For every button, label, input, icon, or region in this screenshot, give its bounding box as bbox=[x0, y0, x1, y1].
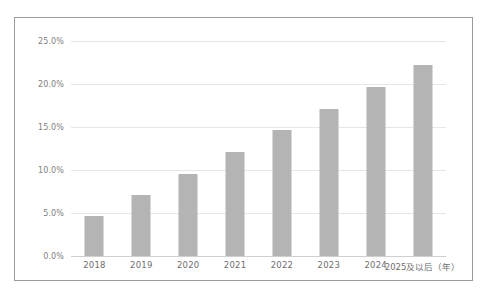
y-tick-label: 25.0% bbox=[38, 37, 64, 46]
bar-2019[interactable] bbox=[132, 195, 151, 256]
bar-2024[interactable] bbox=[366, 87, 385, 256]
x-tick-label: 2025及以后（年） bbox=[385, 260, 461, 272]
x-tick-label: 2021 bbox=[224, 260, 246, 270]
bar-2018[interactable] bbox=[85, 216, 104, 256]
x-tick-label: 2023 bbox=[318, 260, 340, 270]
bar-2023[interactable] bbox=[319, 109, 338, 256]
y-tick-label: 10.0% bbox=[38, 166, 64, 175]
x-axis-tick-labels: 20182019202020212022202320242025及以后（年） bbox=[71, 260, 446, 280]
bar-slot bbox=[165, 41, 212, 256]
y-tick-label: 5.0% bbox=[43, 209, 64, 218]
bar-2022[interactable] bbox=[272, 130, 291, 256]
x-tick-label: 2018 bbox=[83, 260, 105, 270]
y-tick-label: 15.0% bbox=[38, 123, 64, 132]
bar-slot bbox=[212, 41, 259, 256]
bar-2021[interactable] bbox=[226, 152, 245, 256]
x-tick-label: 2020 bbox=[177, 260, 199, 270]
bar-slot bbox=[259, 41, 306, 256]
bar-slot bbox=[399, 41, 446, 256]
x-tick-label: 2022 bbox=[271, 260, 293, 270]
bar-2025及以后（年）[interactable] bbox=[413, 65, 432, 256]
chart-frame: 0.0%5.0%10.0%15.0%20.0%25.0% 20182019202… bbox=[14, 17, 473, 281]
bar-slot bbox=[352, 41, 399, 256]
x-tick-label: 2024 bbox=[364, 260, 386, 270]
bar-2020[interactable] bbox=[179, 174, 198, 256]
plot-area: 0.0%5.0%10.0%15.0%20.0%25.0% bbox=[71, 41, 446, 256]
bar-slot bbox=[71, 41, 118, 256]
bar-slot bbox=[305, 41, 352, 256]
y-tick-label: 20.0% bbox=[38, 80, 64, 89]
x-tick-label: 2019 bbox=[130, 260, 152, 270]
bar-series bbox=[71, 41, 446, 256]
bar-slot bbox=[118, 41, 165, 256]
y-tick-label: 0.0% bbox=[43, 252, 64, 261]
x-axis-line bbox=[71, 256, 446, 257]
